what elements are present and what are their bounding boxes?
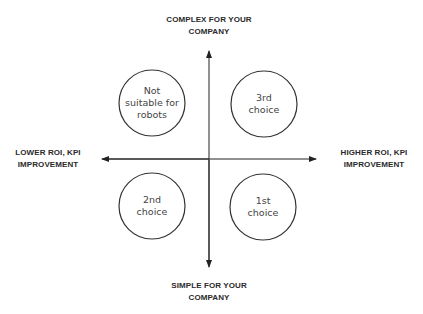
text-third-choice: 3rd choice <box>224 92 304 116</box>
text-first-choice: 1st choice <box>223 195 303 219</box>
text-not-suitable-line3: robots <box>112 109 192 121</box>
text-first-choice-line1: 1st <box>223 195 303 207</box>
text-third-choice-line2: choice <box>224 104 304 116</box>
label-lower-roi: LOWER ROI, KPI IMPROVEMENT <box>0 147 96 171</box>
text-first-choice-line2: choice <box>223 207 303 219</box>
label-simple: SIMPLE FOR YOUR COMPANY <box>129 280 289 304</box>
label-simple-line2: COMPANY <box>129 292 289 304</box>
label-complex-line2: COMPANY <box>129 26 289 38</box>
text-second-choice-line1: 2nd <box>112 194 192 206</box>
label-higher-roi-line1: HIGHER ROI, KPI <box>325 147 423 159</box>
label-higher-roi-line2: IMPROVEMENT <box>325 159 423 171</box>
text-not-suitable-line2: suitable for <box>112 97 192 109</box>
label-complex-line1: COMPLEX FOR YOUR <box>129 14 289 26</box>
label-simple-line1: SIMPLE FOR YOUR <box>129 280 289 292</box>
label-complex: COMPLEX FOR YOUR COMPANY <box>129 14 289 38</box>
text-not-suitable-line1: Not <box>112 85 192 97</box>
text-third-choice-line1: 3rd <box>224 92 304 104</box>
text-second-choice-line2: choice <box>112 206 192 218</box>
label-lower-roi-line1: LOWER ROI, KPI <box>0 147 96 159</box>
text-second-choice: 2nd choice <box>112 194 192 218</box>
label-lower-roi-line2: IMPROVEMENT <box>0 159 96 171</box>
label-higher-roi: HIGHER ROI, KPI IMPROVEMENT <box>325 147 423 171</box>
text-not-suitable: Not suitable for robots <box>112 85 192 121</box>
